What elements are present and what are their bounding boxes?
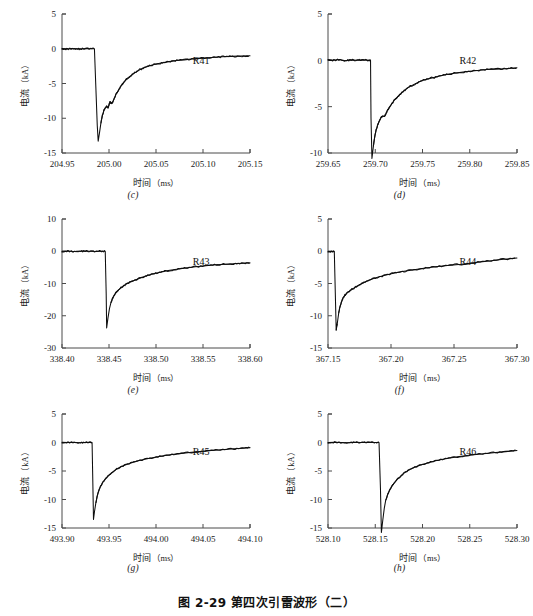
panel-h-label: (h) bbox=[266, 563, 533, 573]
series-label-R45: R45 bbox=[193, 446, 210, 457]
svg-text:5: 5 bbox=[318, 214, 323, 224]
svg-text:-5: -5 bbox=[49, 466, 57, 476]
panel-d-label: (d) bbox=[266, 190, 533, 200]
svg-text:-5: -5 bbox=[49, 79, 57, 89]
svg-text:-5: -5 bbox=[315, 279, 323, 289]
panel-c-label: (c) bbox=[0, 190, 266, 200]
svg-text:-10: -10 bbox=[310, 311, 322, 321]
panel-d-plot: 50-5-10259.65259.70259.75259.80259.85R42… bbox=[266, 0, 533, 205]
figure-caption: 图 2-29 第四次引雷波形（二） bbox=[0, 593, 533, 610]
x-axis-label: 时间（ms） bbox=[133, 177, 180, 188]
series-label-R41: R41 bbox=[193, 55, 210, 66]
y-axis-label: 电流（kA） bbox=[19, 447, 30, 494]
svg-text:338.40: 338.40 bbox=[50, 354, 75, 364]
svg-text:493.90: 493.90 bbox=[50, 534, 75, 544]
svg-text:5: 5 bbox=[52, 409, 57, 419]
panel-f-label: (f) bbox=[266, 385, 533, 395]
svg-text:259.65: 259.65 bbox=[316, 159, 341, 169]
panel-d: 50-5-10259.65259.70259.75259.80259.85R42… bbox=[266, 0, 533, 205]
panel-h-plot: 50-5-10-15528.10528.15528.20528.25528.30… bbox=[266, 400, 533, 580]
svg-text:367.30: 367.30 bbox=[505, 354, 530, 364]
panel-e: 100-10-20-30338.40338.45338.50338.55338.… bbox=[0, 205, 266, 400]
svg-text:204.95: 204.95 bbox=[50, 159, 75, 169]
svg-text:-10: -10 bbox=[310, 495, 322, 505]
x-axis-label: 时间（ms） bbox=[399, 552, 446, 563]
svg-text:494.05: 494.05 bbox=[191, 534, 216, 544]
svg-text:205.15: 205.15 bbox=[238, 159, 263, 169]
svg-text:493.95: 493.95 bbox=[97, 534, 122, 544]
series-label-R43: R43 bbox=[193, 256, 210, 267]
svg-text:367.15: 367.15 bbox=[316, 354, 341, 364]
svg-text:-5: -5 bbox=[315, 102, 323, 112]
x-axis-label: 时间（ms） bbox=[133, 552, 180, 563]
svg-text:10: 10 bbox=[47, 214, 57, 224]
svg-text:-10: -10 bbox=[44, 279, 56, 289]
svg-text:-10: -10 bbox=[44, 113, 56, 123]
svg-text:0: 0 bbox=[318, 56, 323, 66]
svg-text:-10: -10 bbox=[44, 495, 56, 505]
svg-text:338.55: 338.55 bbox=[191, 354, 216, 364]
y-axis-label: 电流（kA） bbox=[285, 60, 296, 107]
svg-text:259.70: 259.70 bbox=[363, 159, 388, 169]
panel-c-plot: 50-5-10-15204.95205.00205.05205.10205.15… bbox=[0, 0, 266, 205]
panel-f: 50-5-10-15367.15367.20367.25367.30R44时间（… bbox=[266, 205, 533, 400]
svg-text:0: 0 bbox=[52, 246, 57, 256]
y-axis-label: 电流（kA） bbox=[19, 60, 30, 107]
svg-text:528.25: 528.25 bbox=[457, 534, 482, 544]
y-axis-label: 电流（kA） bbox=[285, 260, 296, 307]
svg-text:528.20: 528.20 bbox=[410, 534, 435, 544]
x-axis-label: 时间（ms） bbox=[133, 372, 180, 383]
svg-text:5: 5 bbox=[318, 9, 323, 19]
svg-text:259.80: 259.80 bbox=[457, 159, 482, 169]
svg-text:494.00: 494.00 bbox=[144, 534, 169, 544]
svg-text:259.85: 259.85 bbox=[505, 159, 530, 169]
panel-f-plot: 50-5-10-15367.15367.20367.25367.30R44时间（… bbox=[266, 205, 533, 400]
svg-text:338.50: 338.50 bbox=[144, 354, 169, 364]
panel-h: 50-5-10-15528.10528.15528.20528.25528.30… bbox=[266, 400, 533, 580]
svg-text:0: 0 bbox=[318, 438, 323, 448]
y-axis-label: 电流（kA） bbox=[19, 260, 30, 307]
panel-g-label: (g) bbox=[0, 563, 266, 573]
svg-text:367.25: 367.25 bbox=[442, 354, 467, 364]
x-axis-label: 时间（ms） bbox=[399, 177, 446, 188]
y-axis-label: 电流（kA） bbox=[285, 447, 296, 494]
figure-container: 50-5-10-15204.95205.00205.05205.10205.15… bbox=[0, 0, 533, 616]
svg-text:205.10: 205.10 bbox=[191, 159, 216, 169]
svg-text:205.05: 205.05 bbox=[144, 159, 169, 169]
svg-text:528.30: 528.30 bbox=[505, 534, 530, 544]
svg-text:0: 0 bbox=[318, 246, 323, 256]
svg-text:-15: -15 bbox=[44, 523, 56, 533]
svg-text:528.15: 528.15 bbox=[363, 534, 388, 544]
svg-text:-5: -5 bbox=[315, 466, 323, 476]
panel-e-plot: 100-10-20-30338.40338.45338.50338.55338.… bbox=[0, 205, 266, 400]
svg-text:-10: -10 bbox=[310, 148, 322, 158]
svg-text:5: 5 bbox=[52, 9, 57, 19]
series-label-R42: R42 bbox=[460, 55, 477, 66]
x-axis-label: 时间（ms） bbox=[399, 372, 446, 383]
series-label-R44: R44 bbox=[460, 256, 477, 267]
svg-text:259.75: 259.75 bbox=[410, 159, 435, 169]
svg-text:-15: -15 bbox=[310, 343, 322, 353]
series-label-R46: R46 bbox=[460, 446, 477, 457]
panel-grid: 50-5-10-15204.95205.00205.05205.10205.15… bbox=[0, 0, 533, 580]
panel-g: 50-5-10-15493.90493.95494.00494.05494.10… bbox=[0, 400, 266, 580]
svg-text:0: 0 bbox=[52, 438, 57, 448]
svg-text:5: 5 bbox=[318, 409, 323, 419]
svg-text:528.10: 528.10 bbox=[316, 534, 341, 544]
svg-text:338.45: 338.45 bbox=[97, 354, 122, 364]
panel-c: 50-5-10-15204.95205.00205.05205.10205.15… bbox=[0, 0, 266, 205]
svg-text:-15: -15 bbox=[310, 523, 322, 533]
panel-e-label: (e) bbox=[0, 385, 266, 395]
svg-text:494.10: 494.10 bbox=[238, 534, 263, 544]
svg-text:-30: -30 bbox=[44, 343, 56, 353]
svg-text:338.60: 338.60 bbox=[238, 354, 263, 364]
svg-text:0: 0 bbox=[52, 44, 57, 54]
svg-text:-20: -20 bbox=[44, 311, 56, 321]
panel-g-plot: 50-5-10-15493.90493.95494.00494.05494.10… bbox=[0, 400, 266, 580]
svg-text:367.20: 367.20 bbox=[379, 354, 404, 364]
svg-text:-15: -15 bbox=[44, 148, 56, 158]
svg-text:205.00: 205.00 bbox=[97, 159, 122, 169]
